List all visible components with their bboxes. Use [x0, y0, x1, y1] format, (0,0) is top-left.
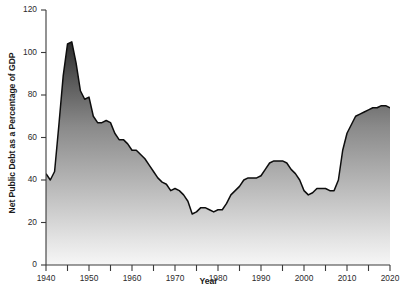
x-tick-label: 2010 — [330, 273, 364, 283]
x-tick-label: 1940 — [29, 273, 63, 283]
x-tick-label: 2020 — [373, 273, 407, 283]
y-tick-label: 60 — [15, 132, 37, 142]
y-tick-label: 20 — [15, 217, 37, 227]
x-tick-label: 1970 — [158, 273, 192, 283]
y-tick-label: 100 — [15, 47, 37, 57]
x-tick-label: 1980 — [201, 273, 235, 283]
x-tick-label: 1990 — [244, 273, 278, 283]
chart-container: Net Public Debt as a Percentage of GDP Y… — [0, 0, 417, 296]
y-tick-label: 120 — [15, 4, 37, 14]
x-tick-label: 1950 — [72, 273, 106, 283]
area-fill — [46, 42, 390, 265]
y-tick-label: 40 — [15, 174, 37, 184]
x-tick-label: 1960 — [115, 273, 149, 283]
x-tick-label: 2000 — [287, 273, 321, 283]
y-tick-label: 0 — [15, 259, 37, 269]
area-chart-plot — [0, 0, 417, 296]
y-tick-label: 80 — [15, 89, 37, 99]
